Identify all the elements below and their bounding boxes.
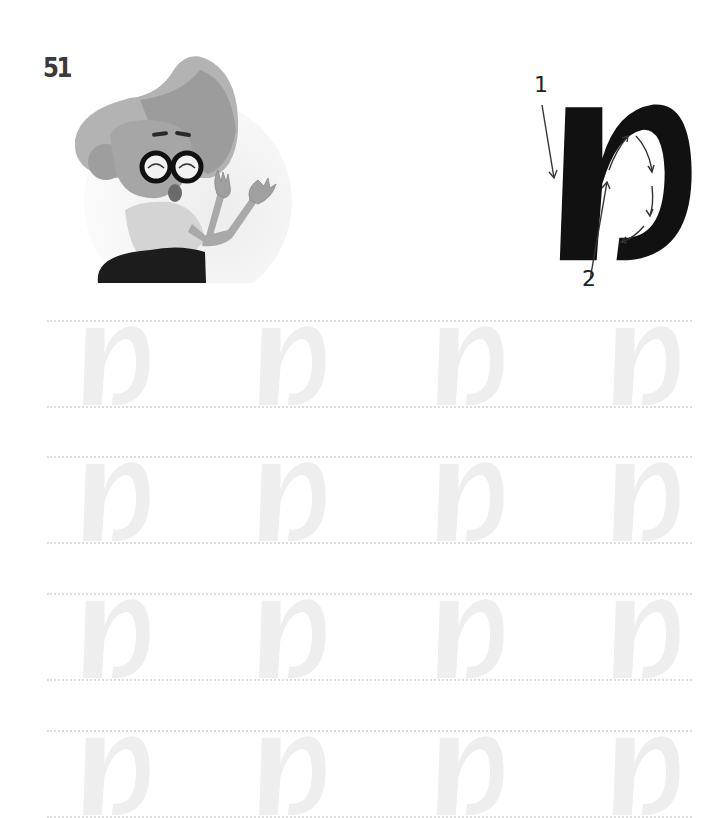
waving-woman-illustration <box>40 40 300 286</box>
model-letter-mem <box>530 70 715 300</box>
trace-letter[interactable] <box>609 458 683 544</box>
trace-letter[interactable] <box>79 732 153 818</box>
stroke-number-1: 1 <box>534 72 548 97</box>
trace-letter[interactable] <box>79 595 153 681</box>
practice-row-4 <box>47 730 692 818</box>
trace-letter[interactable] <box>79 458 153 544</box>
mouth <box>168 184 182 202</box>
trace-letter[interactable] <box>255 322 329 408</box>
practice-row-3 <box>47 593 692 681</box>
practice-row-2 <box>47 456 692 544</box>
guide-line-bottom <box>47 542 692 544</box>
trace-letter[interactable] <box>433 595 507 681</box>
guide-line-bottom <box>47 679 692 681</box>
trace-letter[interactable] <box>255 595 329 681</box>
trace-letter[interactable] <box>433 458 507 544</box>
trace-letter[interactable] <box>255 458 329 544</box>
trace-letter[interactable] <box>433 732 507 818</box>
practice-row-1 <box>47 320 692 408</box>
stroke-number-2: 2 <box>582 266 596 291</box>
left-hand <box>215 170 231 198</box>
trace-letter[interactable] <box>433 322 507 408</box>
trace-letter[interactable] <box>609 322 683 408</box>
trace-letter[interactable] <box>609 595 683 681</box>
trace-letter[interactable] <box>79 322 153 408</box>
trace-letter[interactable] <box>609 732 683 818</box>
trace-letter[interactable] <box>255 732 329 818</box>
guide-line-bottom <box>47 406 692 408</box>
